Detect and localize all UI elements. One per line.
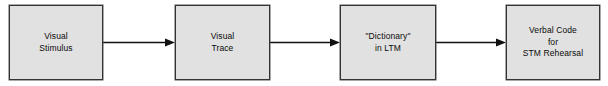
connector-arrow [103,37,175,48]
flow-node-visual-trace: VisualTrace [175,5,270,80]
arrow-head [330,38,340,46]
arrow-head [165,38,175,46]
connector-arrow [436,37,506,48]
flow-node-label-line: STM Rehearsal [523,48,583,60]
flow-node-label-line: Visual [44,31,68,43]
flow-node-label-line: Visual [211,31,235,43]
flow-node-label-line: "Dictionary" [365,31,410,43]
arrow-head [496,38,506,46]
flow-node-dictionary-in-ltm: "Dictionary"in LTM [340,5,436,80]
flow-node-verbal-code-stm-rehearsal: Verbal CodeforSTM Rehearsal [506,5,600,80]
flow-node-label-line: for [548,37,558,49]
flow-node-label-line: in LTM [375,43,401,55]
flow-node-label-line: Stimulus [39,43,72,55]
flow-node-label-line: Verbal Code [529,25,577,37]
connector-arrow [270,37,340,48]
flowchart-diagram: VisualStimulusVisualTrace"Dictionary"in … [0,0,608,86]
flow-node-visual-stimulus: VisualStimulus [9,5,103,80]
flow-node-label-line: Trace [212,43,234,55]
